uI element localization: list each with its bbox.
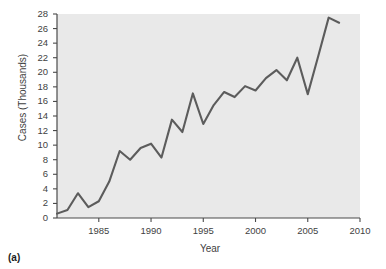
x-tick-label: 1995 bbox=[183, 226, 223, 236]
y-tick-label: 20 bbox=[26, 67, 48, 77]
data-series-line bbox=[57, 18, 339, 214]
y-tick-label: 4 bbox=[26, 184, 48, 194]
y-tick-label: 24 bbox=[26, 38, 48, 48]
y-tick-label: 26 bbox=[26, 24, 48, 34]
y-tick-label: 2 bbox=[26, 198, 48, 208]
x-axis-ticks bbox=[99, 218, 360, 222]
y-tick-label: 6 bbox=[26, 169, 48, 179]
x-tick-label: 1985 bbox=[79, 226, 119, 236]
y-tick-label: 10 bbox=[26, 140, 48, 150]
figure-panel-a: 0246810121416182022242628 19851990199520… bbox=[0, 0, 386, 269]
y-tick-label: 22 bbox=[26, 53, 48, 63]
y-tick-label: 14 bbox=[26, 111, 48, 121]
x-axis-title: Year bbox=[150, 243, 270, 254]
x-tick-label: 2005 bbox=[288, 226, 328, 236]
x-tick-label: 2010 bbox=[340, 226, 380, 236]
line-chart bbox=[0, 0, 386, 240]
y-tick-label: 0 bbox=[26, 213, 48, 223]
x-tick-label: 1990 bbox=[131, 226, 171, 236]
x-tick-label: 2000 bbox=[236, 226, 276, 236]
y-tick-label: 12 bbox=[26, 126, 48, 136]
chart-plot-area: 0246810121416182022242628 19851990199520… bbox=[0, 0, 386, 240]
y-tick-label: 18 bbox=[26, 82, 48, 92]
y-tick-label: 16 bbox=[26, 96, 48, 106]
y-tick-label: 8 bbox=[26, 155, 48, 165]
panel-caption: (a) bbox=[8, 252, 20, 263]
y-axis-title: Cases (Thousands) bbox=[17, 28, 28, 168]
y-tick-label: 28 bbox=[26, 9, 48, 19]
